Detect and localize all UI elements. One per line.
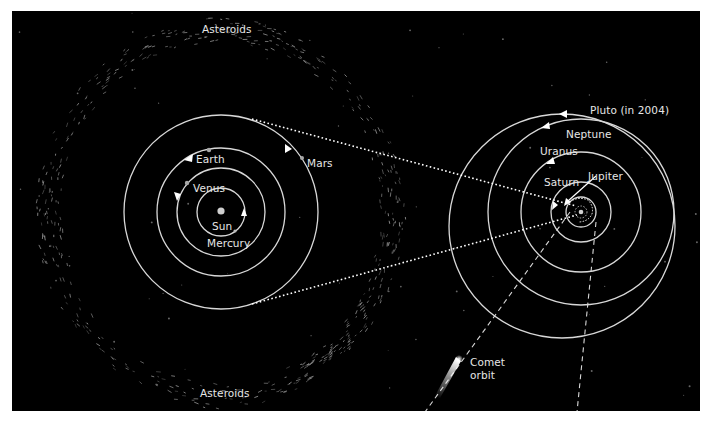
- neptune-arrow-icon: [541, 122, 550, 129]
- sun-icon: [217, 207, 224, 214]
- mercury-icon: [233, 229, 236, 232]
- jupiter-label: Jupiter: [588, 170, 623, 182]
- neptune-label: Neptune: [566, 128, 612, 140]
- mars-icon: [300, 156, 304, 160]
- solar-system-diagram: [12, 11, 700, 411]
- zoom-projection-lines: [252, 119, 577, 304]
- venus-label: Venus: [193, 182, 225, 194]
- orbit-direction-arrows-outer: [541, 110, 567, 210]
- asteroids-label-top: Asteroids: [202, 23, 252, 35]
- comet-label-line1: Comet: [470, 356, 505, 368]
- saturn-arrow-icon: [552, 201, 558, 210]
- asteroids-label-bottom: Asteroids: [200, 387, 250, 399]
- mercury-arrow-icon: [241, 208, 247, 216]
- pluto-label: Pluto (in 2004): [590, 104, 669, 116]
- background-stars: [19, 13, 698, 396]
- earth-arrow-icon: [184, 154, 193, 162]
- diagram-panel: Asteroids Earth Mars Venus Sun Mercury A…: [12, 11, 700, 411]
- outer-sun-icon: [579, 210, 584, 215]
- uranus-label: Uranus: [540, 145, 578, 157]
- sun-label: Sun: [212, 220, 232, 232]
- saturn-label: Saturn: [544, 176, 579, 188]
- mars-label: Mars: [307, 157, 333, 169]
- earth-label: Earth: [196, 153, 225, 165]
- comet-head-icon: [455, 355, 463, 363]
- earth-icon: [207, 148, 211, 152]
- comet-tail-icon: [435, 357, 461, 398]
- comet-label-line2: orbit: [470, 369, 495, 381]
- pluto-arrow-icon: [559, 110, 567, 118]
- venus-icon: [185, 181, 189, 185]
- mercury-label: Mercury: [207, 237, 250, 249]
